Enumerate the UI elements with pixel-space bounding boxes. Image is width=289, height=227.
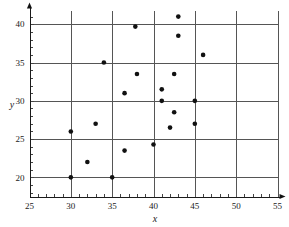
data-point <box>135 72 140 77</box>
data-point <box>176 33 181 38</box>
data-point <box>193 121 198 126</box>
data-point <box>201 53 206 58</box>
y-tick-label-25: 25 <box>16 134 26 144</box>
y-tick-label-30: 30 <box>16 96 26 106</box>
x-tick-label-40: 40 <box>149 201 159 211</box>
data-point <box>102 60 107 65</box>
y-tick-label-40: 40 <box>16 19 26 29</box>
data-point <box>193 99 198 104</box>
data-point <box>122 91 127 96</box>
x-axis-title: x <box>152 213 158 224</box>
data-point <box>151 142 156 147</box>
data-point <box>168 125 173 130</box>
x-tick-label-55: 55 <box>273 201 283 211</box>
x-tick-label-50: 50 <box>232 201 242 211</box>
data-point <box>93 121 98 126</box>
data-points <box>69 14 206 179</box>
x-tick-label-30: 30 <box>66 201 76 211</box>
x-tick-label-35: 35 <box>108 201 118 211</box>
scatter-plot-figure: 25303540455055 2025303540 x y <box>0 0 289 227</box>
x-tick-label-45: 45 <box>190 201 200 211</box>
data-point <box>172 72 177 77</box>
data-point <box>133 24 138 29</box>
x-tick-label-25: 25 <box>25 201 35 211</box>
vertical-gridlines <box>72 11 279 197</box>
data-point <box>159 99 164 104</box>
y-tick-label-35: 35 <box>16 58 26 68</box>
y-axis <box>27 3 32 197</box>
y-tick-label-20: 20 <box>16 173 26 183</box>
x-axis-tick-labels: 25303540455055 <box>25 201 283 211</box>
data-point <box>122 148 127 153</box>
data-point <box>110 175 115 180</box>
data-point <box>159 87 164 92</box>
plot-canvas: 25303540455055 2025303540 x y <box>0 0 289 227</box>
y-axis-arrowhead <box>27 3 32 9</box>
x-axis <box>30 194 286 199</box>
data-point <box>172 110 177 115</box>
data-point <box>176 14 181 19</box>
data-point <box>69 175 74 180</box>
horizontal-gridlines <box>30 25 278 178</box>
data-point <box>69 129 74 134</box>
y-axis-title: y <box>9 99 15 110</box>
x-axis-arrowhead <box>280 194 286 199</box>
y-axis-tick-labels: 2025303540 <box>16 19 26 182</box>
data-point <box>85 160 90 165</box>
